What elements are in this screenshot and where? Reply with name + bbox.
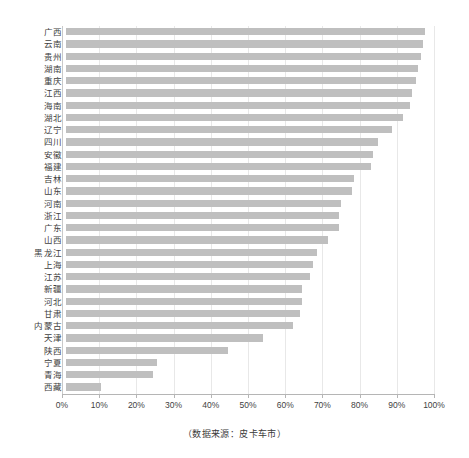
x-tick-label: 100% xyxy=(423,400,445,411)
bar xyxy=(66,77,416,84)
category-label: 甘肃 xyxy=(18,309,66,319)
bar-row: 海南 xyxy=(18,100,438,112)
category-label: 陕西 xyxy=(18,346,66,356)
bar-track xyxy=(66,345,438,357)
x-tick xyxy=(360,394,361,398)
category-label: 内蒙古 xyxy=(18,321,66,331)
bar-row: 上海 xyxy=(18,259,438,271)
bar xyxy=(66,53,421,60)
category-label: 重庆 xyxy=(18,76,66,86)
bar-track xyxy=(66,87,438,99)
category-label: 上海 xyxy=(18,260,66,270)
bar-row: 云南 xyxy=(18,38,438,50)
bar-track xyxy=(66,161,438,173)
x-tick xyxy=(397,394,398,398)
bar xyxy=(66,236,328,243)
bar-row: 重庆 xyxy=(18,75,438,87)
x-tick xyxy=(62,394,63,398)
bar-track xyxy=(66,63,438,75)
bar-track xyxy=(66,271,438,283)
category-label: 宁夏 xyxy=(18,358,66,368)
bar xyxy=(66,285,302,292)
bar-track xyxy=(66,173,438,185)
bar xyxy=(66,151,373,158)
bar-track xyxy=(66,308,438,320)
bar-track xyxy=(66,26,438,38)
x-tick xyxy=(174,394,175,398)
bar xyxy=(66,40,423,47)
bar xyxy=(66,65,418,72)
plot-area: 广西云南贵州湖南重庆江西海南湖北辽宁四川安徽福建吉林山东河南浙江广东山西黑龙江上… xyxy=(0,0,469,400)
category-label: 浙江 xyxy=(18,211,66,221)
bar-track xyxy=(66,369,438,381)
bar-track xyxy=(66,100,438,112)
category-label: 安徽 xyxy=(18,150,66,160)
bar-track xyxy=(66,332,438,344)
bar xyxy=(66,334,263,341)
bar-row: 新疆 xyxy=(18,283,438,295)
bar-row: 内蒙古 xyxy=(18,320,438,332)
bar-rows: 广西云南贵州湖南重庆江西海南湖北辽宁四川安徽福建吉林山东河南浙江广东山西黑龙江上… xyxy=(18,26,438,394)
bar xyxy=(66,359,157,366)
source-caption: （数据来源：皮卡车市） xyxy=(0,428,469,441)
bar-row: 辽宁 xyxy=(18,124,438,136)
category-label: 西藏 xyxy=(18,382,66,392)
category-label: 海南 xyxy=(18,101,66,111)
bar xyxy=(66,163,371,170)
category-label: 江西 xyxy=(18,88,66,98)
x-tick xyxy=(434,394,435,398)
bar-row: 陕西 xyxy=(18,345,438,357)
category-label: 贵州 xyxy=(18,52,66,62)
bar-row: 甘肃 xyxy=(18,308,438,320)
bar-chart-figure: 广西云南贵州湖南重庆江西海南湖北辽宁四川安徽福建吉林山东河南浙江广东山西黑龙江上… xyxy=(0,0,469,458)
bar-track xyxy=(66,38,438,50)
bar-row: 江西 xyxy=(18,87,438,99)
bar xyxy=(66,383,101,390)
x-tick xyxy=(99,394,100,398)
bar-row: 黑龙江 xyxy=(18,247,438,259)
bar-track xyxy=(66,296,438,308)
bar-track xyxy=(66,210,438,222)
category-label: 河北 xyxy=(18,297,66,307)
bar-row: 广西 xyxy=(18,26,438,38)
bar-track xyxy=(66,51,438,63)
bar-track xyxy=(66,247,438,259)
x-tick-label: 10% xyxy=(91,400,108,411)
x-tick-label: 70% xyxy=(314,400,331,411)
category-label: 山东 xyxy=(18,186,66,196)
bar-row: 山西 xyxy=(18,234,438,246)
bar-row: 安徽 xyxy=(18,149,438,161)
x-tick-label: 50% xyxy=(239,400,256,411)
bar-track xyxy=(66,283,438,295)
x-tick-label: 90% xyxy=(388,400,405,411)
x-tick-label: 80% xyxy=(351,400,368,411)
bar-row: 湖北 xyxy=(18,112,438,124)
bar-row: 贵州 xyxy=(18,51,438,63)
bar xyxy=(66,89,412,96)
bar-row: 广东 xyxy=(18,222,438,234)
bar xyxy=(66,371,153,378)
bar-row: 宁夏 xyxy=(18,357,438,369)
bar-row: 江苏 xyxy=(18,271,438,283)
bar xyxy=(66,249,317,256)
category-label: 黑龙江 xyxy=(18,248,66,258)
bar-track xyxy=(66,124,438,136)
x-tick-label: 20% xyxy=(128,400,145,411)
category-label: 湖南 xyxy=(18,64,66,74)
x-tick xyxy=(248,394,249,398)
category-label: 河南 xyxy=(18,199,66,209)
bar-row: 福建 xyxy=(18,161,438,173)
bar xyxy=(66,261,313,268)
bar-row: 河南 xyxy=(18,198,438,210)
category-label: 湖北 xyxy=(18,113,66,123)
x-tick xyxy=(322,394,323,398)
bar-track xyxy=(66,320,438,332)
bar-track xyxy=(66,259,438,271)
x-tick-label: 40% xyxy=(202,400,219,411)
bar-row: 天津 xyxy=(18,332,438,344)
bar-track xyxy=(66,234,438,246)
bar xyxy=(66,187,352,194)
bar-row: 四川 xyxy=(18,136,438,148)
bar-row: 西藏 xyxy=(18,381,438,393)
bar-track xyxy=(66,381,438,393)
